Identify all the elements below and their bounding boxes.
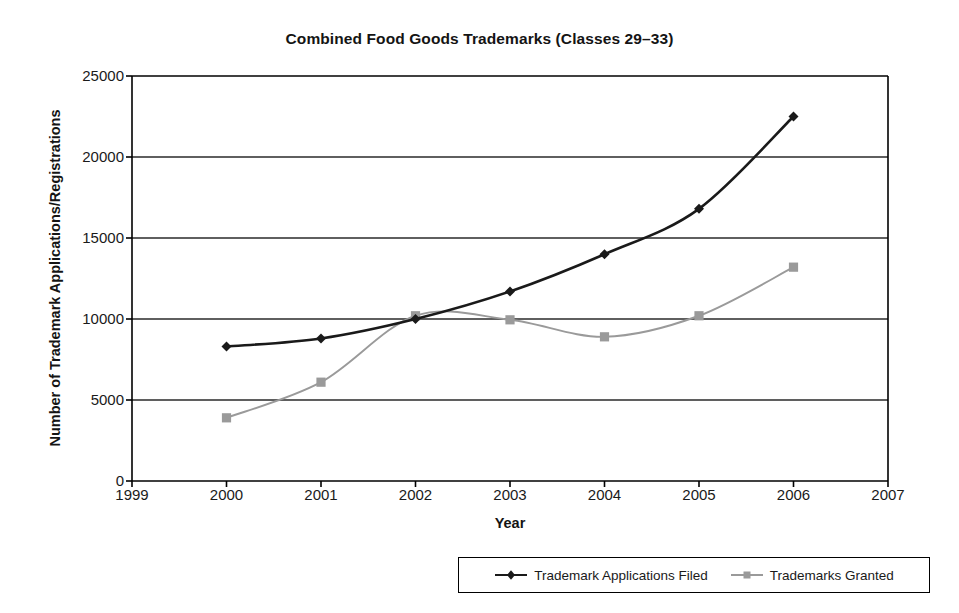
- x-tick-label: 1999: [87, 487, 177, 502]
- legend-item-filed[interactable]: Trademark Applications Filed: [494, 568, 708, 583]
- x-tick-label: 2002: [371, 487, 461, 502]
- data-point-marker: [316, 333, 326, 343]
- legend-label-filed: Trademark Applications Filed: [534, 568, 708, 583]
- y-tick-label: 10000: [4, 311, 124, 326]
- y-tick-label: 15000: [4, 230, 124, 245]
- y-tick-label: 25000: [4, 68, 124, 83]
- data-point-marker: [505, 315, 514, 324]
- y-axis-tick-labels: 0500010000150002000025000: [0, 0, 124, 500]
- data-point-marker: [694, 311, 703, 320]
- data-point-marker: [222, 342, 232, 352]
- x-tick-label: 2001: [276, 487, 366, 502]
- legend-label-granted: Trademarks Granted: [770, 568, 894, 583]
- data-point-marker: [600, 332, 609, 341]
- plot-area: [0, 0, 959, 613]
- chart-legend: Trademark Applications Filed Trademarks …: [458, 557, 930, 593]
- x-axis-tick-labels: 199920002001200220032004200520062007: [0, 487, 959, 513]
- data-series-layer: [222, 112, 799, 423]
- x-tick-label: 2005: [654, 487, 744, 502]
- data-point-marker: [316, 378, 325, 387]
- x-tick-label: 2007: [843, 487, 933, 502]
- x-tick-label: 2000: [182, 487, 272, 502]
- y-tick-label: 5000: [4, 392, 124, 407]
- y-tick-label: 0: [4, 473, 124, 488]
- data-point-marker: [505, 286, 515, 296]
- legend-item-granted[interactable]: Trademarks Granted: [730, 568, 894, 583]
- y-tick-label: 20000: [4, 149, 124, 164]
- x-tick-label: 2004: [560, 487, 650, 502]
- data-point-marker: [222, 413, 231, 422]
- legend-marker-square-icon: [730, 569, 764, 581]
- data-point-marker: [600, 249, 610, 259]
- legend-marker-diamond-icon: [494, 569, 528, 581]
- x-tick-label: 2003: [465, 487, 555, 502]
- x-tick-label: 2006: [749, 487, 839, 502]
- data-point-marker: [789, 263, 798, 272]
- chart-page: Combined Food Goods Trademarks (Classes …: [0, 0, 959, 613]
